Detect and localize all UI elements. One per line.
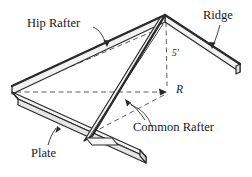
label-ridge: Ridge <box>203 9 233 22</box>
label-plate: Plate <box>31 147 56 160</box>
common-rafter-leader-arrowhead <box>125 99 131 107</box>
label-hip-rafter: Hip Rafter <box>27 17 80 30</box>
plate-stub <box>86 138 118 145</box>
ridge-member <box>165 15 240 74</box>
common-rafter-leader <box>127 101 145 120</box>
hip-rafter-leader <box>93 27 106 44</box>
label-point-r: R <box>176 84 183 96</box>
label-rise-dimension: 5' <box>172 49 179 59</box>
plate-leader <box>48 128 56 145</box>
ridge-end-face <box>236 64 240 74</box>
plate-stub-face <box>86 138 118 145</box>
plate-leader-arrowhead <box>56 126 62 133</box>
label-common-rafter: Common Rafter <box>133 121 214 134</box>
point-r-arrowhead <box>159 89 167 96</box>
figure-canvas: Hip Rafter Ridge Plate Common Rafter 5' … <box>0 0 252 177</box>
dashed-vertical-rise <box>166 22 167 86</box>
